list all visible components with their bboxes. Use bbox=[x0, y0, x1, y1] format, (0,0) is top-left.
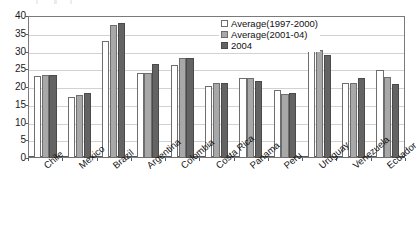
bar bbox=[137, 73, 144, 158]
bar bbox=[118, 23, 125, 158]
bar bbox=[221, 83, 228, 158]
bar bbox=[110, 25, 117, 158]
y-axis-tick-label: 5 bbox=[2, 135, 26, 145]
legend-swatch-series-2 bbox=[221, 42, 228, 49]
y-axis-tick-label: 25 bbox=[2, 64, 26, 74]
bar bbox=[308, 50, 315, 158]
legend-swatch-series-1 bbox=[221, 31, 228, 38]
legend-item: 2004 bbox=[221, 40, 318, 51]
bar bbox=[213, 83, 220, 158]
legend-label: Average(2001-04) bbox=[231, 29, 307, 40]
legend-item: Average(2001-04) bbox=[221, 29, 318, 40]
legend-item: Average(1997-2000) bbox=[221, 18, 318, 29]
legend-label: Average(1997-2000) bbox=[231, 18, 318, 29]
bar bbox=[358, 78, 365, 158]
bar bbox=[34, 76, 41, 158]
bar bbox=[255, 81, 262, 158]
bar-group bbox=[131, 16, 165, 158]
bar bbox=[324, 55, 331, 158]
y-axis-labels: 4035302520151050 bbox=[0, 16, 26, 158]
bar bbox=[49, 75, 56, 158]
bar bbox=[68, 97, 75, 158]
bar-group bbox=[62, 16, 96, 158]
bars-layer bbox=[28, 16, 405, 158]
cropped-edge-artifact bbox=[30, 0, 122, 4]
bar bbox=[392, 84, 399, 158]
y-axis-tick-label: 35 bbox=[2, 29, 26, 39]
bar bbox=[144, 73, 151, 158]
legend-swatch-series-0 bbox=[221, 20, 228, 27]
y-axis-tick-label: 40 bbox=[2, 11, 26, 21]
bar-group bbox=[97, 16, 131, 158]
bar-group bbox=[165, 16, 199, 158]
bar bbox=[84, 93, 91, 158]
bar bbox=[76, 95, 83, 158]
y-axis-tick-label: 20 bbox=[2, 82, 26, 92]
bar-group bbox=[28, 16, 62, 158]
bar bbox=[289, 93, 296, 158]
bar bbox=[186, 58, 193, 158]
bar bbox=[102, 41, 109, 159]
x-axis-labels: ChileMexicoBrazilArgentinaColombiaCosta … bbox=[0, 158, 414, 234]
bar bbox=[281, 94, 288, 158]
bar bbox=[316, 50, 323, 158]
bar bbox=[152, 64, 159, 158]
legend: Average(1997-2000)Average(2001-04)2004 bbox=[219, 17, 320, 52]
y-axis-tick-label: 10 bbox=[2, 118, 26, 128]
y-axis-tick-label: 15 bbox=[2, 100, 26, 110]
y-axis-tick-label: 30 bbox=[2, 47, 26, 57]
bar-group bbox=[371, 16, 405, 158]
bar-group bbox=[336, 16, 370, 158]
legend-label: 2004 bbox=[231, 40, 252, 51]
bar bbox=[42, 75, 49, 158]
